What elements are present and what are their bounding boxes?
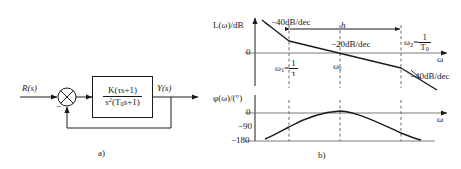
bandwidth-label: h [341,21,346,30]
transfer-function-block: K(τs+1) s2(T0s+1) [92,76,153,118]
omega2-numerator: 1 [418,33,431,42]
output-label: Y(s) [157,84,172,93]
caption-b: b) [318,150,326,160]
input-label: R(s) [22,84,37,93]
omega-axis-label-phase: ω [437,115,443,124]
omega1-numerator: 1 [289,59,298,68]
phase-curve [265,111,421,140]
block-diagram-panel: K(τs+1) s2(T0s+1) R(s) Y(s) − a) [0,0,205,169]
omega2-denominator: T0 [418,42,431,53]
slope-label-left: −40dB/dec [271,18,311,27]
magnitude-zero-tick: 0 [246,48,251,57]
transfer-function-expression: K(τs+1) s2(T0s+1) [103,86,142,108]
slope-label-right: −40dB/dec [410,72,450,81]
phase-tick-0: 0 [246,108,251,117]
figure-root: K(τs+1) s2(T0s+1) R(s) Y(s) − a) [0,0,461,169]
bode-plot-panel: L(ω)/dB 0 −40dB/dec h −20dB/dec −40dB/de… [205,0,461,169]
magnitude-axis-label: L(ω)/dB [213,21,243,30]
omega-c-label: ωc [333,62,342,72]
tf-denominator: s2(T0s+1) [103,96,142,108]
omega2-label: ω2= 1 T0 [404,33,431,54]
slope-label-middle: −20dB/dec [331,40,371,49]
omega-c-subscript: c [339,64,342,71]
phase-tick-minus-90: −90 [238,122,252,131]
phase-axis-label: φ(ω)/(°) [213,94,242,103]
omega-axis-label-magnitude: ω [437,55,443,64]
omega2-fraction: 1 T0 [418,33,431,54]
tf-numerator: K(τs+1) [103,86,142,95]
summing-junction-minus-sign: − [56,101,61,111]
omega1-label: ω1= 1 τ [275,59,298,79]
caption-a: a) [98,148,105,158]
omega1-fraction: 1 τ [289,59,298,79]
phase-tick-minus-180: −180 [231,136,250,145]
omega1-denominator: τ [289,68,298,78]
